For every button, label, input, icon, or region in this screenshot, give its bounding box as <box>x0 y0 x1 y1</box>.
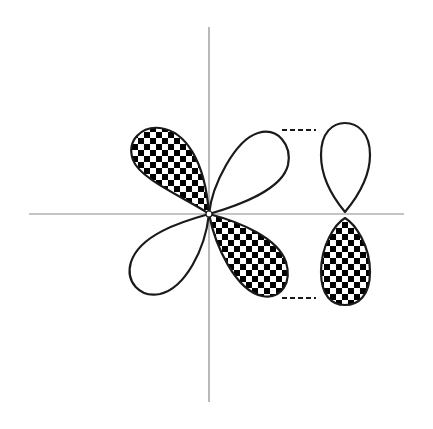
origin-node <box>206 211 212 217</box>
orbital-diagram <box>0 0 433 429</box>
